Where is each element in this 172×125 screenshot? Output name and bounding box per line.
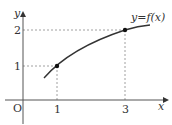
function-graph: y 2 1 O 1 3 x y=f(x) <box>0 0 172 125</box>
origin-label: O <box>13 102 22 115</box>
x-tick-1: 1 <box>54 103 61 116</box>
x-tick-3: 3 <box>122 103 129 116</box>
point-1-1 <box>55 64 59 68</box>
curve-label: y=f(x) <box>130 11 165 24</box>
point-3-2 <box>123 28 127 32</box>
curve-f <box>44 25 150 78</box>
y-tick-2: 2 <box>14 24 21 37</box>
y-tick-1: 1 <box>14 60 21 73</box>
x-axis-label: x <box>158 100 165 113</box>
y-axis-label: y <box>13 7 21 20</box>
guide-lines <box>23 30 125 100</box>
